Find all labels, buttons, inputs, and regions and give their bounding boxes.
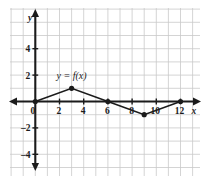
plot-background — [10, 8, 200, 176]
data-point-9-neg1 — [142, 112, 147, 117]
chart-figure: 0 2 4 6 8 10 12 4 2 –2 –4 x y y = f(x) — [0, 0, 206, 186]
x-axis-name: x — [191, 106, 197, 116]
function-label: y = f(x) — [56, 70, 88, 82]
y-axis-name: y — [27, 13, 33, 23]
coordinate-plane: 0 2 4 6 8 10 12 4 2 –2 –4 x y y = f(x) — [0, 0, 206, 186]
x-tick-label-0: 0 — [31, 106, 36, 116]
data-point-0-0 — [33, 99, 38, 104]
data-point-3-1 — [69, 86, 74, 91]
x-tick-label-2: 2 — [57, 106, 62, 116]
y-tick-label-neg4: –4 — [20, 150, 31, 160]
y-tick-label-2: 2 — [26, 71, 31, 81]
data-point-12-0 — [178, 99, 183, 104]
data-point-6-0 — [105, 99, 110, 104]
y-tick-label-neg2: –2 — [20, 123, 31, 133]
x-tick-label-6: 6 — [105, 106, 110, 116]
y-tick-label-4: 4 — [26, 44, 31, 54]
x-tick-label-12: 12 — [175, 106, 185, 116]
x-tick-label-4: 4 — [81, 106, 86, 116]
